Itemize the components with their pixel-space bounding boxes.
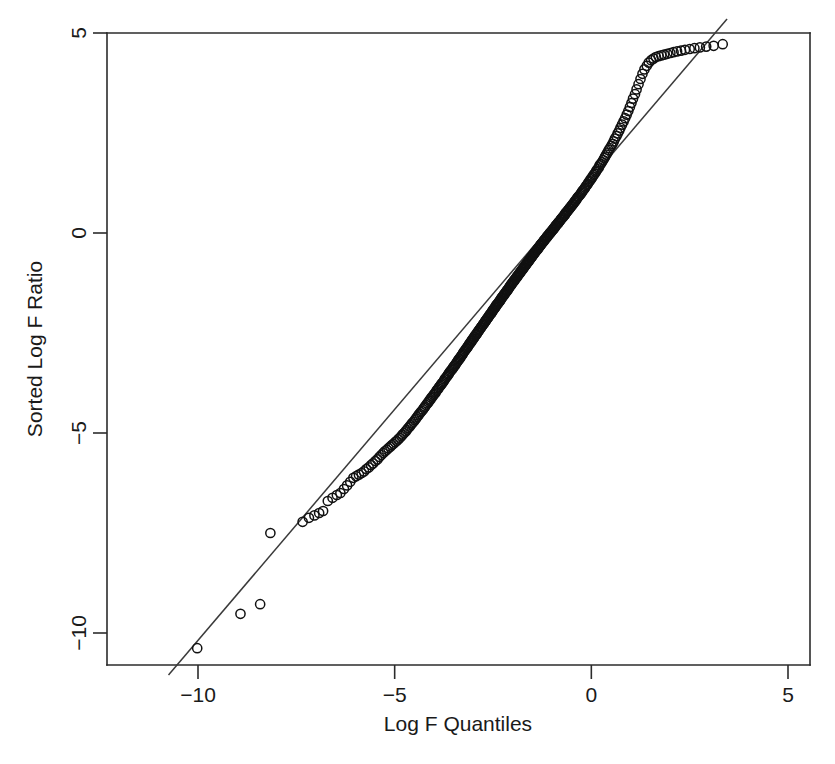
x-tick-label: −5	[383, 683, 407, 706]
y-tick-label: −5	[67, 421, 90, 445]
plot-region	[107, 33, 810, 665]
y-tick-label: 0	[67, 227, 90, 239]
y-axis-title: Sorted Log F Ratio	[23, 261, 46, 437]
plot-canvas: −10−505 50−5−10 Log F Quantiles Sorted L…	[0, 0, 835, 764]
x-axis-title: Log F Quantiles	[384, 712, 532, 735]
plot-area-background	[107, 33, 810, 665]
y-tick-label: −10	[67, 615, 90, 651]
y-tick-label: 5	[67, 27, 90, 39]
x-tick-label: 5	[782, 683, 794, 706]
x-tick-label: −10	[180, 683, 216, 706]
x-tick-label: 0	[585, 683, 597, 706]
qq-plot-figure: −10−505 50−5−10 Log F Quantiles Sorted L…	[0, 0, 835, 764]
